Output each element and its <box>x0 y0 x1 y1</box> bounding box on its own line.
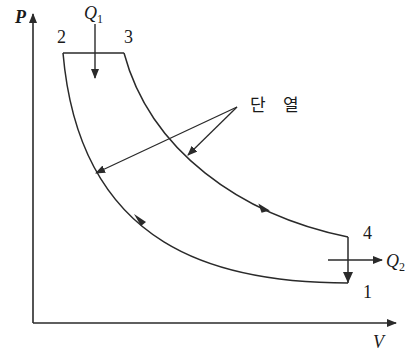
process-3-4 <box>124 53 348 237</box>
arrow-4-1-icon <box>343 272 353 283</box>
axes <box>33 14 396 323</box>
q1-subscript: 1 <box>97 12 103 26</box>
pv-diagram: P V 2 3 4 1 Q1 Q2 단 열 <box>0 0 414 362</box>
point-2-label: 2 <box>57 28 66 46</box>
q1-symbol: Q <box>84 3 97 23</box>
adiabatic-label: 단 열 <box>250 97 305 114</box>
point-4-label: 4 <box>363 224 372 242</box>
adiabatic-pointer-right <box>188 107 237 155</box>
q2-subscript: 2 <box>399 260 405 274</box>
q2-symbol: Q <box>386 251 399 271</box>
v-axis-label: V <box>373 333 384 351</box>
q1-label: Q1 <box>84 4 103 25</box>
q2-label: Q2 <box>386 252 405 273</box>
adiabatic-pointer-left <box>96 107 237 173</box>
p-axis-label: P <box>15 8 26 26</box>
point-1-label: 1 <box>363 283 372 301</box>
point-3-label: 3 <box>124 28 133 46</box>
pv-diagram-graphic <box>0 0 414 362</box>
